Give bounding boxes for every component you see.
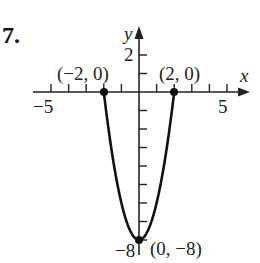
point-neg2-0 [100, 88, 108, 96]
x-tick-label-max: 5 [218, 96, 228, 117]
x-axis [33, 84, 250, 97]
point-vertex [135, 236, 143, 244]
point-2-0 [170, 88, 178, 96]
x-axis-label: x [239, 65, 249, 86]
y-axis [135, 26, 148, 255]
y-axis-label: y [122, 23, 133, 44]
y-axis-ticks [139, 55, 147, 240]
x-axis-arrow-icon [238, 88, 250, 97]
y-axis-arrow-icon [135, 26, 144, 39]
y-tick-label-top: 2 [124, 44, 134, 65]
y-tick-label-bottom: −8 [115, 240, 135, 261]
point-label-right: (2, 0) [159, 63, 200, 85]
parabola-chart: x y −5 5 2 −8 (−2, 0) (2, 0) (0, −8) [0, 0, 260, 263]
point-label-vertex: (0, −8) [150, 238, 202, 260]
x-tick-label-min: −5 [33, 96, 53, 117]
point-label-left: (−2, 0) [57, 63, 109, 85]
